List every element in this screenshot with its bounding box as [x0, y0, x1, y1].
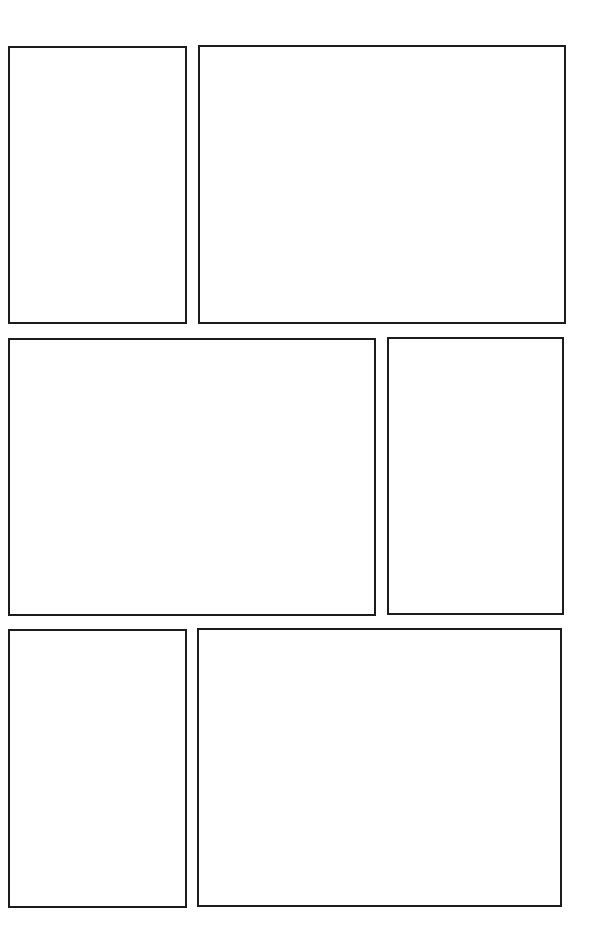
panel-6 [197, 628, 562, 907]
panel-1 [8, 46, 187, 324]
panel-3 [8, 338, 376, 616]
panel-2 [198, 45, 566, 324]
panel-4 [387, 337, 564, 615]
panel-5 [8, 629, 187, 908]
comic-page [0, 0, 604, 939]
